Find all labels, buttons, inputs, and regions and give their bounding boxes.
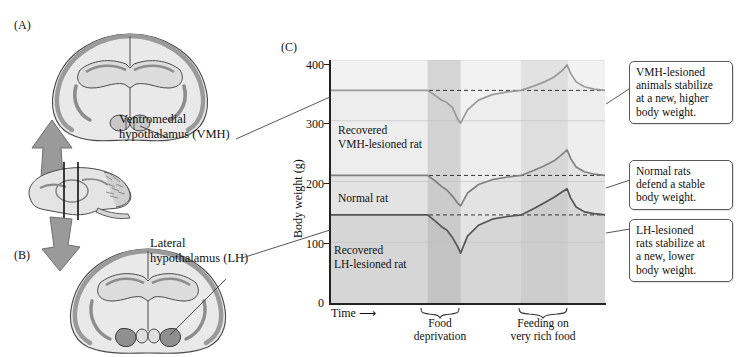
- leader-line-vmh-anatomy: [236, 95, 332, 141]
- vmh-callout: VMH-lesioned animals stabilize at a new,…: [629, 61, 733, 124]
- y-tick-200: 200: [296, 177, 324, 192]
- lh-callout-line4: body weight.: [636, 264, 727, 277]
- lh-label: Lateral hypothalamus (LH): [150, 236, 248, 266]
- vmh-label-line1: Ventromedial: [119, 112, 230, 127]
- x-axis-title: Time ⟶: [331, 306, 376, 321]
- x-axis-title-text: Time: [331, 306, 356, 320]
- phase-label-rich-food: Feeding on very rich food: [495, 317, 591, 343]
- panel-c-letter: (C): [281, 40, 297, 55]
- vmh-callout-line1: VMH-lesioned: [636, 66, 727, 79]
- normal-curve-label-line1: Normal rat: [338, 192, 388, 206]
- y-tick-400: 400: [296, 58, 324, 73]
- vmh-label-line2: hypothalamus (VMH): [119, 127, 230, 142]
- y-tick-0: 0: [296, 296, 324, 311]
- lh-callout-line2: rats stabilize at: [636, 237, 727, 250]
- figure-root: (A) Ventromedial hypothalamus (VMH): [0, 0, 739, 357]
- brace-rich-food: [518, 305, 568, 317]
- normal-callout-line1: Normal rats: [636, 165, 727, 178]
- y-tick-mark-400: [324, 64, 330, 65]
- lh-label-line2: hypothalamus (LH): [150, 251, 248, 266]
- vmh-label: Ventromedial hypothalamus (VMH): [119, 112, 230, 142]
- leader-line-lh-anatomy: [242, 228, 332, 260]
- lh-curve-label-line2: LH-lesioned rat: [334, 258, 407, 272]
- vmh-curve-label: Recovered VMH-lesioned rat: [338, 124, 422, 151]
- vmh-callout-line4: body weight.: [636, 106, 727, 119]
- phase1-line1: Feeding on: [495, 317, 591, 330]
- panel-a-letter: (A): [14, 18, 31, 33]
- vmh-callout-line3: at a new, higher: [636, 92, 727, 105]
- normal-callout-line2: defend a stable: [636, 178, 727, 191]
- vmh-curve-label-line2: VMH-lesioned rat: [338, 138, 422, 152]
- panel-b-letter: (B): [14, 248, 30, 263]
- y-axis-title: Body weight (g): [291, 159, 306, 238]
- vmh-callout-line2: animals stabilize: [636, 79, 727, 92]
- y-tick-mark-200: [324, 183, 330, 184]
- normal-callout: Normal rats defend a stable body weight.: [629, 160, 733, 210]
- normal-curve-label: Normal rat: [338, 192, 388, 206]
- brace-food-deprivation: [420, 305, 460, 317]
- lh-callout: LH-lesioned rats stabilize at a new, low…: [629, 219, 733, 282]
- phase-label-food-deprivation: Food deprivation: [400, 317, 480, 343]
- arrow-right-icon: ⟶: [359, 306, 376, 320]
- phase0-line2: deprivation: [400, 330, 480, 343]
- lh-curve-label-line1: Recovered: [334, 244, 407, 258]
- lh-callout-line3: a new, lower: [636, 250, 727, 263]
- lh-callout-line1: LH-lesioned: [636, 224, 727, 237]
- lh-label-line1: Lateral: [150, 236, 248, 251]
- phase0-line1: Food: [400, 317, 480, 330]
- normal-callout-line3: body weight.: [636, 191, 727, 204]
- lh-curve-label: Recovered LH-lesioned rat: [334, 244, 407, 271]
- phase1-line2: very rich food: [495, 330, 591, 343]
- vmh-curve-label-line1: Recovered: [338, 124, 422, 138]
